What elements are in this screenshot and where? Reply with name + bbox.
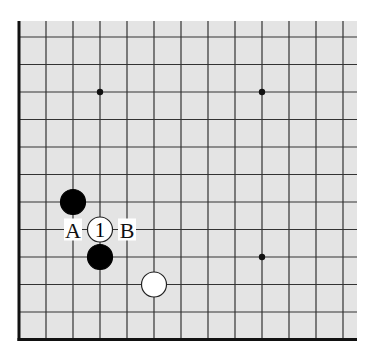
stone-move-number: 1: [95, 218, 106, 242]
point-label-b: B: [120, 218, 135, 243]
black-stone: [61, 190, 86, 215]
go-board: AB 1: [0, 0, 374, 358]
point-label-a: A: [65, 218, 81, 243]
white-stone: [142, 272, 167, 297]
board-background: [19, 21, 357, 340]
star-point-icon: [97, 89, 103, 95]
black-stone: [88, 245, 113, 270]
star-point-icon: [259, 254, 265, 260]
star-point-icon: [259, 89, 265, 95]
